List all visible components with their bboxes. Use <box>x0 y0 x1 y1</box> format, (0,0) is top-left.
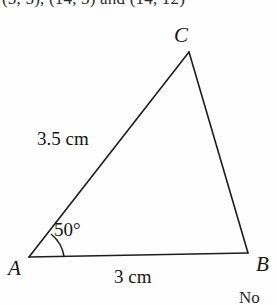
figure-page: (5, 5), (14, 5) and (14, 12) C A B 3.5 c… <box>0 0 277 305</box>
clipped-bottom-text: No <box>239 288 260 305</box>
triangle-side-ab <box>29 253 248 257</box>
triangle-side-cb <box>189 52 248 253</box>
angle-label-a: 50° <box>54 219 81 240</box>
vertex-label-c: C <box>174 25 188 46</box>
triangle-figure <box>0 0 277 305</box>
triangle-side-ac <box>29 52 189 257</box>
vertex-label-a: A <box>8 258 21 279</box>
side-length-label-ab: 3 cm <box>114 266 151 287</box>
triangle-svg <box>0 0 277 305</box>
vertex-label-b: B <box>256 254 269 275</box>
side-length-label-ac: 3.5 cm <box>37 128 89 149</box>
